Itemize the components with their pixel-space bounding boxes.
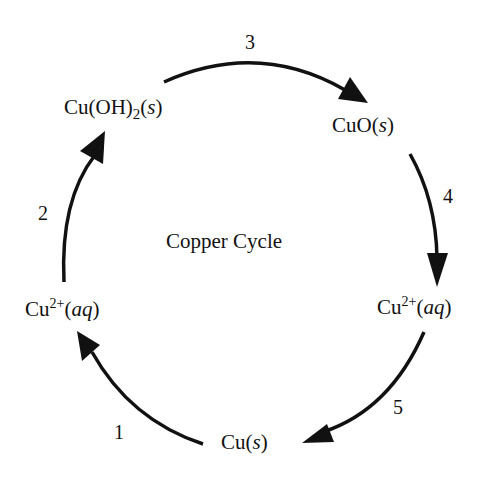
arrow-step-1 [77,331,203,444]
step-label-3: 3 [245,32,255,52]
arrow-step-2 [64,131,105,282]
arrow-step-4 [410,154,448,287]
species-copper-hydroxide: Cu(OH)2(s) [64,97,163,118]
step-label-4: 4 [443,186,453,206]
step-label-5: 5 [393,397,403,417]
arrow-step-3 [164,63,368,103]
species-copper-oxide: CuO(s) [332,115,394,136]
species-copper-ion-right: Cu2+(aq) [377,297,451,318]
arrow-step-5 [302,332,424,443]
step-label-2: 2 [38,203,48,223]
species-copper-ion-left: Cu2+(aq) [25,299,99,320]
diagram-title: Copper Cycle [166,231,282,252]
species-copper-metal: Cu(s) [221,432,268,453]
step-label-1: 1 [114,422,124,442]
